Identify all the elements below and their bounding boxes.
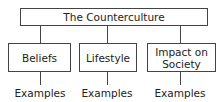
node-beliefs-label: Beliefs <box>22 52 57 64</box>
connector-root-lifestyle <box>107 26 108 43</box>
leaf-impact-examples: Examples <box>145 87 215 99</box>
connector-impact-examples <box>180 72 181 85</box>
connector-root-impact <box>180 26 181 43</box>
connector-root-beliefs <box>40 26 41 43</box>
root-label: The Counterculture <box>63 11 164 23</box>
root-node: The Counterculture <box>20 8 208 26</box>
connector-beliefs-examples <box>40 72 41 85</box>
node-beliefs: Beliefs <box>8 43 71 72</box>
node-impact: Impact on Society <box>147 43 216 72</box>
connector-lifestyle-examples <box>107 72 108 85</box>
node-impact-label: Impact on Society <box>154 46 210 70</box>
node-lifestyle-label: Lifestyle <box>86 52 130 64</box>
leaf-lifestyle-examples: Examples <box>72 87 142 99</box>
node-lifestyle: Lifestyle <box>79 43 137 72</box>
leaf-beliefs-examples: Examples <box>5 87 75 99</box>
